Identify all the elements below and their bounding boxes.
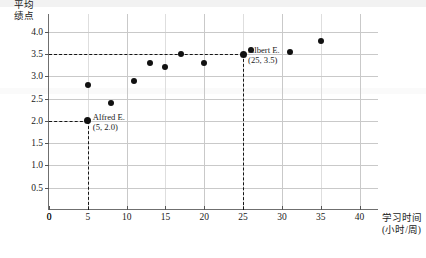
gridline-horizontal — [49, 143, 378, 144]
point-annotation: Albert E.(25, 3.5) — [248, 45, 280, 65]
y-axis-title: 平均 绩点 — [14, 0, 48, 22]
point-annotation: Alfred E.(5, 2.0) — [93, 112, 125, 132]
x-axis-title-line1: 学习时间 — [382, 212, 422, 224]
guide-line-vertical — [88, 121, 89, 210]
x-axis-tick-label: 20 — [200, 212, 210, 222]
gridline-vertical — [127, 14, 128, 209]
x-axis-tick — [127, 206, 128, 210]
gridline-vertical — [165, 14, 166, 209]
data-point — [147, 60, 153, 66]
data-point — [287, 49, 293, 55]
plot-area: 05101520253035400.51.01.52.02.53.03.54.0… — [48, 14, 378, 210]
scan-artifact-top — [0, 0, 426, 7]
guide-line-vertical — [243, 54, 244, 210]
y-axis-tick-label: 0.5 — [31, 183, 49, 193]
data-point — [131, 78, 137, 84]
data-point — [85, 82, 91, 88]
guide-line-horizontal — [49, 121, 88, 122]
x-axis-tick — [165, 206, 166, 210]
point-annotation-coords: (5, 2.0) — [93, 122, 125, 132]
x-axis-tick — [282, 206, 283, 210]
data-point — [318, 38, 324, 44]
point-annotation-coords: (25, 3.5) — [248, 55, 280, 65]
x-axis-tick-label: 30 — [277, 212, 287, 222]
y-axis-tick-label: 1.0 — [31, 160, 49, 170]
data-point — [178, 51, 184, 57]
gridline-horizontal — [49, 76, 378, 77]
x-axis-tick-label: 5 — [85, 212, 90, 222]
x-axis-tick-label: 10 — [122, 212, 132, 222]
scatter-plot-figure: 平均 绩点 学习时间 (小时/周) 05101520253035400.51.0… — [0, 0, 426, 258]
axis-origin-label: 0 — [47, 212, 52, 222]
gridline-vertical — [282, 14, 283, 209]
data-point — [240, 51, 247, 58]
y-axis-tick-label: 4.0 — [31, 27, 49, 37]
x-axis-tick-label: 40 — [355, 212, 365, 222]
point-annotation-name: Albert E. — [248, 45, 280, 55]
data-point — [162, 64, 168, 70]
x-axis-tick — [204, 206, 205, 210]
gridline-horizontal — [49, 32, 378, 33]
x-axis-tick — [49, 206, 50, 210]
x-axis-tick — [360, 206, 361, 210]
y-axis-title-line2: 绩点 — [14, 11, 48, 22]
y-axis-title-line1: 平均 — [14, 0, 48, 11]
y-axis-tick-label: 1.5 — [31, 138, 49, 148]
guide-line-horizontal — [49, 54, 243, 55]
gridline-horizontal — [49, 165, 378, 166]
y-axis-tick-label: 3.5 — [31, 49, 49, 59]
x-axis-tick-label: 35 — [316, 212, 326, 222]
gridline-horizontal — [49, 99, 378, 100]
data-point — [108, 100, 114, 106]
gridline-vertical — [360, 14, 361, 209]
x-axis-title: 学习时间 (小时/周) — [382, 212, 422, 236]
data-point — [84, 117, 91, 124]
x-axis-title-line2: (小时/周) — [382, 224, 422, 236]
y-axis-tick-label: 2.5 — [31, 94, 49, 104]
data-point — [201, 60, 207, 66]
gridline-vertical — [204, 14, 205, 209]
x-axis-tick-label: 25 — [238, 212, 248, 222]
y-axis-tick-label: 3.0 — [31, 71, 49, 81]
y-axis-tick-label: 2.0 — [31, 116, 49, 126]
gridline-horizontal — [49, 188, 378, 189]
x-axis-tick-label: 15 — [161, 212, 171, 222]
point-annotation-name: Alfred E. — [93, 112, 125, 122]
x-axis-tick — [321, 206, 322, 210]
